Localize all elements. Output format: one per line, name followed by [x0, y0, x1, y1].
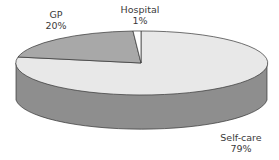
label-gp-name: GP	[42, 9, 70, 20]
label-hospital: Hospital 1%	[118, 4, 162, 26]
label-self-care: Self-care 79%	[216, 132, 266, 154]
slice-gp	[18, 31, 141, 63]
label-hospital-name: Hospital	[118, 4, 162, 15]
label-hospital-pct: 1%	[118, 15, 162, 26]
label-gp: GP 20%	[42, 9, 70, 31]
label-self-care-pct: 79%	[216, 143, 266, 154]
label-gp-pct: 20%	[42, 20, 70, 31]
label-self-care-name: Self-care	[216, 132, 266, 143]
